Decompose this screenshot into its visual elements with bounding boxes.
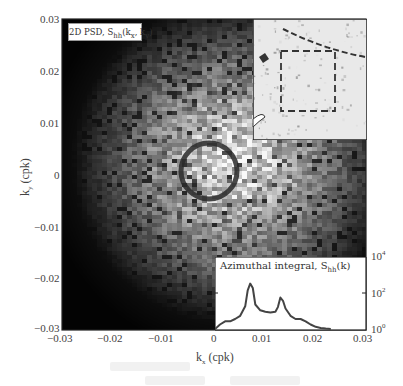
az-ytick-1e4: 104 — [371, 249, 386, 262]
xtick-0.02: 0.02 — [303, 332, 322, 344]
ytick-neg0.01: −0.01 — [34, 221, 59, 233]
figure: 2D PSD, Shh(kx, ky) Azimuthal integral, … — [0, 0, 403, 386]
psd-title-text: 2D PSD, S — [69, 27, 113, 37]
psd-comma: , k — [135, 27, 146, 37]
xtick-neg0.02: −0.02 — [97, 332, 122, 344]
ytick-0.03: 0.03 — [40, 13, 59, 25]
psd-title-rest: (k — [122, 27, 130, 37]
ytick-0: 0 — [54, 169, 60, 181]
xtick-0.01: 0.01 — [252, 332, 271, 344]
inset-photo — [253, 19, 367, 140]
psd-title-sub: hh — [113, 32, 122, 40]
bleed-through — [110, 362, 190, 371]
xtick-neg0.01: −0.01 — [148, 332, 173, 344]
y-axis-label: ky (cpk) — [18, 158, 34, 196]
xtick-0.03: 0.03 — [353, 332, 372, 344]
ytick-neg0.02: −0.02 — [34, 272, 59, 284]
bleed-through — [230, 376, 300, 385]
psd-title-box: 2D PSD, Shh(kx, ky) — [68, 23, 142, 41]
psd-close: ) — [149, 27, 152, 37]
ytick-0.01: 0.01 — [40, 117, 59, 129]
az-title-sub: hh — [328, 266, 337, 274]
az-title-rest: (k) — [337, 260, 351, 271]
xtick-neg0.03: −0.03 — [47, 332, 72, 344]
az-ytick-1e0: 100 — [371, 322, 386, 335]
bleed-through — [145, 376, 205, 385]
xtick-0: 0 — [211, 332, 217, 344]
azimuthal-title: Azimuthal integral, Shh(k) — [220, 260, 350, 274]
az-ytick-1e2: 102 — [371, 286, 386, 299]
x-axis-label: kx (cpk) — [196, 350, 234, 366]
ytick-0.02: 0.02 — [40, 65, 59, 77]
az-title-text: Azimuthal integral, S — [220, 260, 328, 271]
